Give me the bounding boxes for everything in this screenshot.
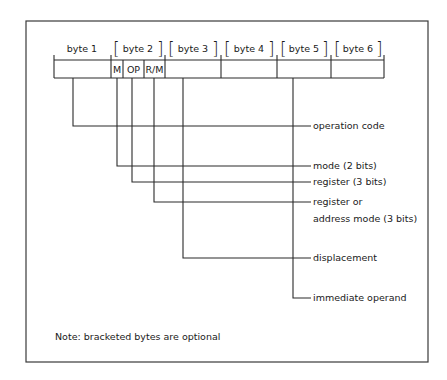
callout-operation-code: operation code [313,120,385,131]
field-label-op: OP [127,64,140,75]
byte-label-5: byte 5 [289,43,319,54]
leader-operation-code [73,78,311,126]
leader-mode [117,78,311,166]
footnote: Note: bracketed bytes are optional [55,331,220,342]
bracket-open-icon: [ [168,39,175,59]
bracket-open-icon: [ [224,39,231,59]
bracket-open-icon: [ [280,39,287,59]
leader-register-or-address-mode [154,78,311,202]
callout-mode: mode (2 bits) [313,160,377,171]
bracket-open-icon: [ [334,39,341,59]
callout-register: register (3 bits) [313,176,386,187]
byte-label-4: byte 4 [234,43,264,54]
leader-lines [73,78,311,298]
byte2-fields: M OP R/M [113,64,164,75]
bracket-close-icon: ] [212,39,219,59]
instruction-format-diagram: byte 1 [ byte 2 ] [ byte 3 ] [ byte 4 ] … [0,0,447,380]
bracket-close-icon: ] [268,39,275,59]
bracket-close-icon: ] [157,39,164,59]
bracket-close-icon: ] [322,39,329,59]
diagram-frame [26,21,428,362]
byte-label-2: byte 2 [123,43,153,54]
bracket-close-icon: ] [376,39,383,59]
byte-label-6: byte 6 [343,43,373,54]
byte-labels: byte 1 [ byte 2 ] [ byte 3 ] [ byte 4 ] … [67,39,383,59]
callout-immediate-operand: immediate operand [313,292,407,303]
field-label-rm: R/M [146,64,164,75]
field-label-m: M [113,64,121,75]
leader-immediate-operand [293,78,311,298]
byte-label-1: byte 1 [67,43,97,54]
callout-register-or: register or [313,196,362,207]
callout-address-mode: address mode (3 bits) [313,213,417,224]
leader-displacement [183,78,311,258]
bracket-open-icon: [ [113,39,120,59]
callout-displacement: displacement [313,252,377,263]
byte-label-3: byte 3 [178,43,208,54]
callout-labels: operation code mode (2 bits) register (3… [313,120,417,303]
